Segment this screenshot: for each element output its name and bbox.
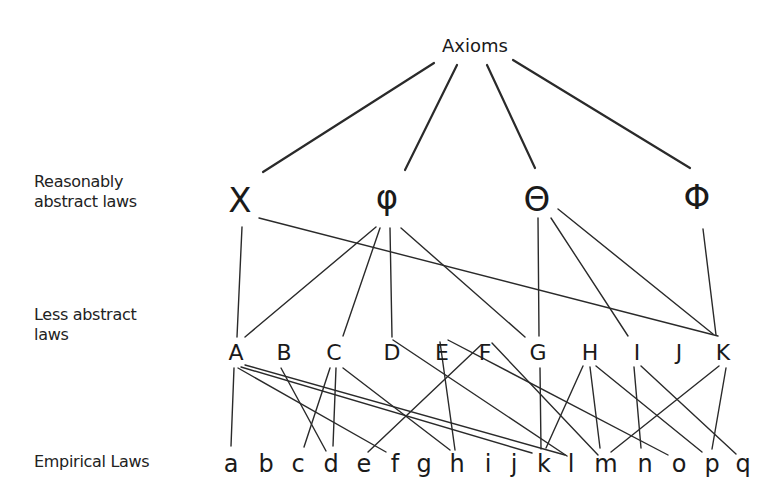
level-label-empirical: Empirical Laws (34, 452, 149, 472)
node-D: D (384, 340, 401, 365)
node-h: h (449, 450, 464, 478)
edge-Axioms-Phi (513, 60, 690, 168)
level-label-reasonably-abstract: Reasonably abstract laws (34, 172, 137, 212)
edge-X-K (259, 218, 718, 336)
edge-I-n (634, 367, 641, 448)
level-label-line: Less abstract (34, 305, 136, 325)
level-label-line: Reasonably (34, 172, 137, 192)
node-c: c (291, 450, 304, 478)
node-j: j (510, 450, 518, 478)
edge-A-l (245, 365, 565, 455)
node-phi_lower: φ (376, 177, 398, 217)
node-k: k (537, 450, 551, 478)
edge-G-k (540, 368, 541, 449)
node-b: b (258, 450, 273, 478)
nodes-layer: AxiomsXφΘΦABCDEFGHIJKabcdefghijklmnopq (224, 35, 751, 479)
edge-phi_lower-G (401, 228, 525, 337)
node-C: C (326, 340, 341, 365)
node-I: I (634, 340, 641, 365)
hierarchy-diagram: AxiomsXφΘΦABCDEFGHIJKabcdefghijklmnopq (0, 0, 777, 504)
edge-phi_lower-A (245, 227, 376, 337)
node-o: o (672, 450, 687, 478)
node-A: A (228, 340, 243, 365)
node-q: q (735, 450, 750, 478)
edge-H-m (590, 367, 600, 448)
node-m: m (594, 450, 617, 478)
edge-B-d (281, 368, 326, 451)
level-label-line: abstract laws (34, 192, 137, 212)
edges-layer (231, 60, 736, 456)
node-X: X (228, 180, 251, 220)
edge-A-a (231, 368, 234, 446)
node-Phi: Φ (684, 177, 711, 217)
node-g: g (416, 450, 431, 478)
node-a: a (224, 450, 239, 478)
node-Theta: Θ (524, 179, 551, 219)
node-J: J (674, 340, 683, 365)
edge-Theta-G (538, 218, 539, 336)
level-label-line: laws (34, 325, 136, 345)
node-e: e (357, 450, 372, 478)
edge-X-A (237, 227, 242, 337)
node-G: G (529, 340, 546, 365)
edge-Axioms-phi_lower (405, 65, 457, 170)
level-label-line: Empirical Laws (34, 452, 149, 472)
edge-A-k (241, 367, 532, 453)
node-H: H (582, 340, 599, 365)
edge-Axioms-Theta (487, 65, 535, 168)
edge-C-h (343, 368, 450, 450)
edge-C-d (333, 368, 336, 446)
node-l: l (568, 450, 575, 478)
edge-K-m (611, 366, 719, 452)
node-i: i (485, 450, 492, 478)
edge-phi_lower-D (390, 228, 392, 337)
edge-H-p (596, 366, 702, 452)
node-n: n (637, 450, 652, 478)
node-E: E (435, 340, 449, 365)
node-p: p (704, 450, 719, 478)
node-B: B (276, 340, 291, 365)
edge-Theta-I (551, 218, 628, 336)
level-label-less-abstract: Less abstract laws (34, 305, 136, 345)
edge-K-p (712, 368, 726, 449)
node-f: f (391, 450, 400, 478)
node-F: F (479, 340, 492, 365)
node-K: K (716, 340, 731, 365)
edge-A-f (238, 368, 386, 452)
node-Axioms: Axioms (442, 35, 508, 56)
edge-Axioms-X (263, 63, 434, 172)
edge-Phi-K (703, 229, 716, 335)
node-d: d (323, 450, 338, 478)
